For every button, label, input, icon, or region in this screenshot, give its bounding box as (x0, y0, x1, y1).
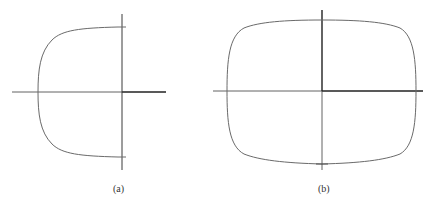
panel-a (12, 14, 166, 170)
figure-canvas (0, 0, 430, 205)
panel-b (213, 10, 423, 170)
panel-a-caption: (a) (113, 183, 124, 194)
panel-b-caption: (b) (318, 183, 330, 194)
